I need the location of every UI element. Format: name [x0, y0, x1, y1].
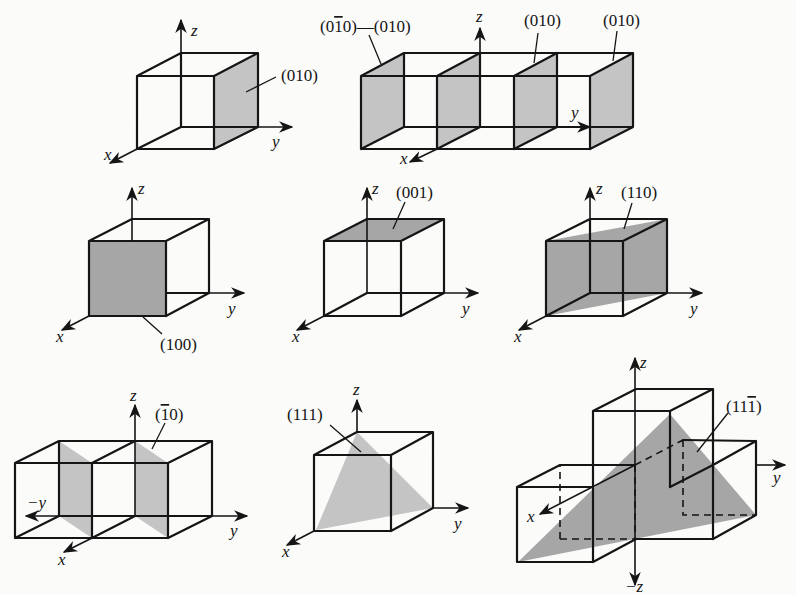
plane-111 [316, 432, 433, 530]
z-label: z [137, 179, 145, 198]
panel-c-100: (100) z y x [55, 179, 244, 354]
x-label: x [291, 327, 300, 346]
label-1bar10: (10) [155, 405, 183, 424]
z-label: z [129, 386, 137, 405]
x-label: x [55, 327, 64, 346]
panel-e-110: (110) z y x [513, 179, 702, 346]
z-label: z [371, 179, 379, 198]
label-0bar10-010: (010)—(010) [320, 17, 411, 36]
panel-a-010: (010) z y x [103, 20, 318, 164]
x-label: x [399, 149, 408, 168]
panel-b-010-family: (010)—(010) (010) (010) z y x [320, 7, 640, 168]
label-110: (110) [621, 183, 657, 202]
x-label: x [526, 507, 535, 526]
y-label: y [569, 103, 579, 122]
panel-f-1bar10: (10) z y −y x [15, 386, 247, 569]
z-label: z [475, 7, 483, 26]
neg-z-label: −z [625, 577, 643, 595]
label-010: (010) [281, 66, 318, 85]
label-001: (001) [396, 183, 433, 202]
label-111: (111) [287, 405, 323, 424]
panel-d-001: (001) z y x [291, 179, 478, 346]
x-label: x [57, 550, 66, 569]
y-label: y [771, 468, 781, 487]
z-label: z [639, 353, 647, 372]
label-010-right: (010) [603, 11, 640, 30]
z-label: z [352, 380, 360, 399]
x-label: x [513, 327, 522, 346]
z-label: z [190, 21, 198, 40]
y-label: y [452, 514, 462, 533]
panel-h-11bar1: (111) z y x −z [517, 353, 785, 595]
label-11bar1: (111) [726, 397, 762, 416]
x-label: x [103, 145, 112, 164]
label-010-mid: (010) [524, 11, 561, 30]
z-label: z [595, 179, 603, 198]
panel-g-111: (111) z y x [281, 380, 468, 561]
plane-010 [214, 53, 258, 149]
label-100: (100) [160, 335, 197, 354]
y-label: y [270, 132, 280, 151]
miller-indices-diagram: (010) z y x (010)—(010) (010) (010) z y … [0, 0, 796, 595]
y-label: y [226, 299, 236, 318]
y-label: y [228, 521, 238, 540]
y-label: y [688, 299, 698, 318]
neg-y-label: −y [27, 493, 46, 512]
y-label: y [460, 299, 470, 318]
x-label: x [281, 542, 290, 561]
x-axis [110, 149, 137, 163]
